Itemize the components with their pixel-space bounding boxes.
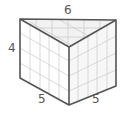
bottom-right-edge-label: 5 [92, 93, 100, 105]
prism-drawing [0, 0, 122, 115]
height-label: 4 [8, 42, 16, 54]
top-edge-label: 6 [64, 4, 72, 16]
triangular-prism-diagram: 6 4 5 5 [0, 0, 122, 115]
bottom-left-edge-label: 5 [38, 93, 46, 105]
